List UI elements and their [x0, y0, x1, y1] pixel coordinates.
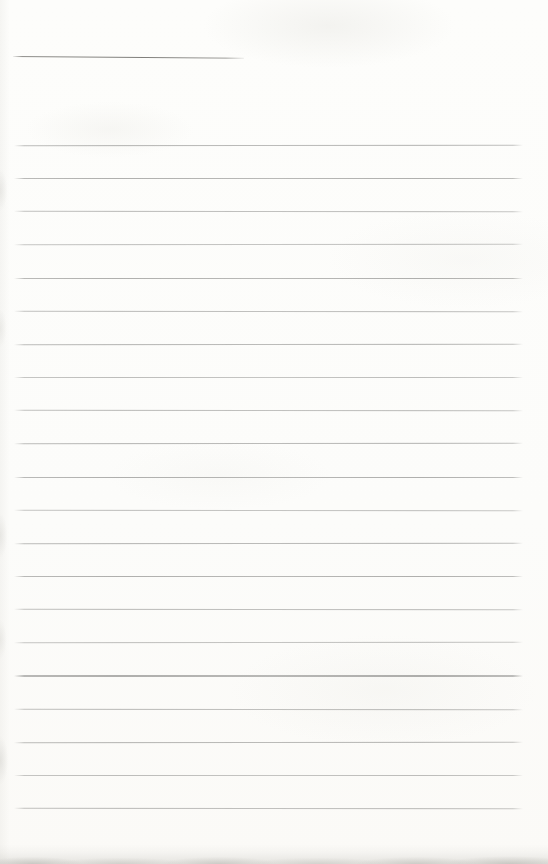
ruled-line	[14, 609, 523, 611]
ruled-line	[14, 708, 523, 710]
ruled-line	[14, 509, 523, 511]
ruled-line	[14, 675, 523, 676]
bottom-page-edge-shadow	[0, 838, 548, 864]
ruled-line	[14, 211, 523, 213]
ruled-line	[14, 741, 523, 743]
paper-texture	[0, 0, 548, 864]
ruled-line	[14, 443, 523, 445]
title-underline-rule	[13, 56, 244, 59]
ruled-line	[14, 642, 523, 644]
ruled-line	[14, 344, 523, 346]
ruled-line	[14, 377, 523, 378]
ruled-line	[14, 244, 523, 246]
ruled-line	[14, 410, 523, 412]
ruled-line	[14, 178, 523, 179]
ruled-line	[14, 543, 523, 545]
ruled-line	[14, 808, 523, 810]
ruled-line	[14, 775, 523, 776]
ruled-line	[14, 576, 523, 577]
ruled-line	[14, 145, 523, 147]
left-page-edge-shadow	[0, 0, 14, 864]
ruled-line	[14, 278, 523, 279]
ruled-line	[14, 311, 523, 313]
ruled-line	[14, 477, 523, 478]
scanned-notebook-page: { "page": { "type": "blank-lined-noteboo…	[0, 0, 548, 864]
